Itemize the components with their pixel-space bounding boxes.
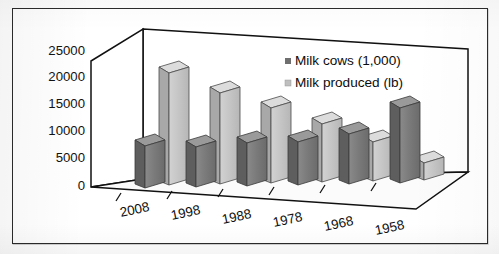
y-tick-label-0: 0: [78, 178, 85, 193]
bar-milk-cows-1968: [339, 122, 369, 184]
y-tick-label-5000: 5000: [56, 150, 85, 165]
x-tick-label-1988: 1988: [221, 206, 253, 227]
y-tick-label-10000: 10000: [48, 123, 85, 138]
x-tick-label-1958: 1958: [374, 217, 406, 238]
x-tick-label-2008: 2008: [119, 199, 151, 220]
y-tick-label-25000: 25000: [48, 43, 85, 58]
bar-milk-cows-1978: [288, 130, 318, 185]
legend-label-milk-produced: Milk produced (lb): [295, 75, 403, 90]
legend-entry-milk-cows[interactable]: Milk cows (1,000): [285, 53, 401, 68]
bar-milk-cows-1998: [186, 135, 216, 187]
legend-marker-icon: [285, 80, 291, 86]
bar-group-1968: [339, 122, 393, 184]
y-tick-label-15000: 15000: [48, 96, 85, 111]
x-tick-label-1978: 1978: [272, 209, 304, 230]
bar-milk-cows-1958: [390, 96, 420, 183]
legend-marker-icon: [285, 58, 291, 64]
y-tick-label-20000: 20000: [48, 69, 85, 84]
legend-label-milk-cows: Milk cows (1,000): [295, 53, 401, 68]
bar-chart-3d: 25000 20000 15000 10000 5000 0: [13, 9, 487, 243]
chart-page: 25000 20000 15000 10000 5000 0: [0, 0, 499, 254]
chart-frame: 25000 20000 15000 10000 5000 0: [12, 8, 488, 244]
chart-plot-area: 25000 20000 15000 10000 5000 0: [13, 9, 487, 243]
x-tick-label-1998: 1998: [170, 202, 202, 223]
bar-milk-cows-2008: [135, 134, 165, 188]
x-tick-label-1968: 1968: [323, 213, 355, 234]
bar-milk-cows-1988: [237, 131, 267, 186]
legend-entry-milk-produced[interactable]: Milk produced (lb): [285, 75, 403, 90]
y-axis: 25000 20000 15000 10000 5000 0: [48, 43, 85, 193]
